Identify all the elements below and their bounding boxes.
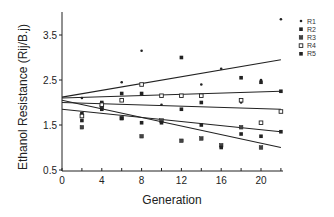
legend-label: R1 bbox=[307, 18, 316, 25]
y-tick-label: 0.5 bbox=[43, 165, 57, 176]
data-point bbox=[120, 92, 124, 96]
data-point bbox=[120, 98, 124, 102]
data-point bbox=[239, 125, 243, 129]
data-point bbox=[259, 121, 263, 125]
x-tick-label: 8 bbox=[139, 175, 145, 186]
data-point bbox=[120, 81, 123, 84]
y-ticks: 0.51.52.53.5 bbox=[43, 30, 62, 176]
data-point bbox=[300, 20, 303, 23]
data-point bbox=[200, 94, 204, 98]
data-point bbox=[100, 103, 104, 107]
data-point bbox=[80, 125, 84, 129]
data-point bbox=[80, 119, 84, 123]
data-point bbox=[180, 56, 184, 60]
regression-line bbox=[62, 91, 281, 98]
data-point bbox=[239, 98, 243, 102]
data-point bbox=[279, 89, 283, 93]
x-tick-label: 12 bbox=[176, 175, 188, 186]
data-points bbox=[80, 18, 283, 149]
x-axis-title: Generation bbox=[142, 193, 201, 207]
chart: 048121620 0.51.52.53.5 Generation Ethano… bbox=[0, 0, 334, 217]
data-point bbox=[279, 110, 283, 114]
regression-lines bbox=[62, 60, 281, 148]
data-point bbox=[140, 121, 144, 125]
data-point bbox=[299, 44, 303, 48]
data-point bbox=[259, 134, 263, 138]
data-point bbox=[299, 36, 303, 40]
regression-line bbox=[62, 60, 281, 97]
data-point bbox=[180, 139, 184, 143]
regression-line bbox=[62, 109, 281, 132]
data-point bbox=[279, 130, 283, 134]
y-tick-label: 3.5 bbox=[43, 30, 57, 41]
regression-line bbox=[62, 100, 281, 147]
data-point bbox=[299, 27, 303, 31]
data-point bbox=[259, 80, 263, 84]
legend-label: R2 bbox=[307, 26, 316, 33]
data-point bbox=[200, 83, 203, 86]
data-point bbox=[280, 18, 283, 21]
data-point bbox=[200, 123, 204, 127]
data-point bbox=[219, 146, 223, 150]
y-axis-title: Ethanol Resistance (Rij/B.j) bbox=[16, 24, 30, 170]
data-point bbox=[299, 52, 303, 56]
data-point bbox=[81, 97, 84, 100]
x-tick-label: 0 bbox=[59, 175, 65, 186]
x-tick-label: 4 bbox=[99, 175, 105, 186]
data-point bbox=[239, 132, 243, 136]
data-point bbox=[160, 94, 164, 98]
data-point bbox=[239, 76, 243, 80]
data-point bbox=[180, 107, 184, 111]
legend-label: R5 bbox=[307, 50, 316, 57]
data-point bbox=[220, 67, 223, 70]
regression-line bbox=[62, 103, 281, 110]
legend-label: R4 bbox=[307, 42, 316, 49]
data-point bbox=[200, 101, 204, 105]
data-point bbox=[140, 49, 143, 52]
y-tick-label: 1.5 bbox=[43, 120, 57, 131]
data-point bbox=[200, 137, 204, 141]
x-tick-label: 16 bbox=[216, 175, 228, 186]
data-point bbox=[259, 146, 263, 150]
legend-label: R3 bbox=[307, 34, 316, 41]
data-point bbox=[80, 114, 84, 118]
data-point bbox=[120, 116, 124, 120]
data-point bbox=[160, 103, 163, 106]
data-point bbox=[180, 94, 184, 98]
x-tick-label: 20 bbox=[255, 175, 267, 186]
legend: R1R2R3R4R5 bbox=[299, 18, 316, 58]
y-tick-label: 2.5 bbox=[43, 75, 57, 86]
data-point bbox=[140, 83, 144, 87]
data-point bbox=[140, 92, 144, 96]
data-point bbox=[100, 107, 104, 111]
data-point bbox=[140, 134, 144, 138]
data-point bbox=[160, 121, 164, 125]
